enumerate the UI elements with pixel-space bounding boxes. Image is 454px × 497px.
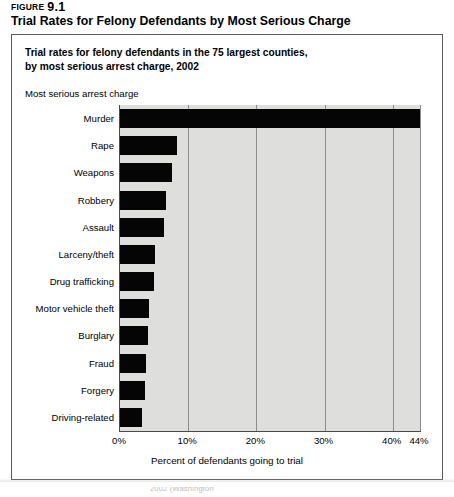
bar-fraud — [120, 354, 146, 373]
x-tick-label-10pct: 10% — [178, 435, 197, 447]
page-title: Trial Rates for Felony Defendants by Mos… — [11, 14, 441, 29]
source-note-text: 2002 (Washington — [150, 487, 214, 493]
bar-row — [120, 191, 420, 210]
bar-row — [120, 381, 420, 400]
y-tick-label-robbery: Robbery — [0, 195, 114, 206]
x-tick-label-0pct: 0% — [112, 435, 126, 447]
bar-assault — [120, 218, 164, 237]
bar-forgery — [120, 381, 145, 400]
bar-murder — [120, 109, 420, 128]
x-tick-label-20pct: 20% — [246, 435, 265, 447]
figure-number-line: FIGURE9.1 — [11, 2, 441, 13]
y-tick-label-assault: Assault — [0, 222, 114, 233]
figure-number: 9.1 — [47, 0, 65, 14]
y-tick-label-murder: Murder — [0, 113, 114, 124]
y-tick-label-rape: Rape — [0, 140, 114, 151]
source-note: 2002 (Washington — [0, 487, 454, 497]
bar-row — [120, 136, 420, 155]
bar-rape — [120, 136, 177, 155]
y-tick-label-fraud: Fraud — [0, 358, 114, 369]
x-tick-label-44pct: 44% — [409, 435, 428, 447]
chart-subtitle-line-1: Trial rates for felony defendants in the… — [25, 46, 308, 60]
y-tick-label-weapons: Weapons — [0, 167, 114, 178]
bar-row — [120, 163, 420, 182]
bar-motor-vehicle-theft — [120, 299, 149, 318]
x-tick-label-30pct: 30% — [314, 435, 333, 447]
chart-subtitle-line-2: by most serious arrest charge, 2002 — [25, 60, 308, 74]
y-tick-label-drug-trafficking: Drug trafficking — [0, 276, 114, 287]
bar-row — [120, 408, 420, 427]
plot-area — [119, 105, 421, 431]
bar-row — [120, 109, 420, 128]
y-tick-label-larceny-theft: Larceny/theft — [0, 249, 114, 260]
bar-robbery — [120, 191, 166, 210]
bar-row — [120, 354, 420, 373]
bar-burglary — [120, 326, 148, 345]
x-axis-tick-labels: 0%10%20%30%40%44% — [119, 435, 421, 449]
chart-subtitle: Trial rates for felony defendants in the… — [25, 46, 308, 73]
y-tick-label-burglary: Burglary — [0, 330, 114, 341]
bar-drug-trafficking — [120, 272, 154, 291]
figure-label-word: FIGURE — [11, 2, 44, 12]
chart-panel: Trial rates for felony defendants in the… — [11, 34, 443, 480]
bar-larceny-theft — [120, 245, 155, 264]
bar-row — [120, 272, 420, 291]
y-axis-title: Most serious arrest charge — [25, 88, 139, 100]
y-axis-tick-labels: MurderRapeWeaponsRobberyAssaultLarceny/t… — [0, 105, 114, 431]
x-tick-label-40pct: 40% — [382, 435, 401, 447]
x-axis-title: Percent of defendants going to trial — [12, 455, 442, 467]
bar-row — [120, 326, 420, 345]
y-tick-label-forgery: Forgery — [0, 385, 114, 396]
bar-row — [120, 245, 420, 264]
figure-heading: FIGURE9.1 Trial Rates for Felony Defenda… — [11, 2, 441, 29]
bar-row — [120, 299, 420, 318]
bar-row — [120, 218, 420, 237]
bar-weapons — [120, 163, 172, 182]
bar-driving-related — [120, 408, 142, 427]
y-tick-label-motor-vehicle-theft: Motor vehicle theft — [0, 303, 114, 314]
y-tick-label-driving-related: Driving-related — [0, 412, 114, 423]
